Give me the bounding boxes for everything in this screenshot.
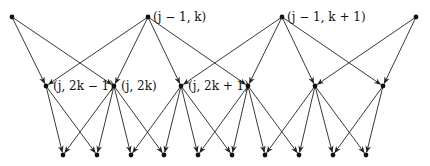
graph-node-m5: [381, 84, 386, 89]
graph-node-t3: [414, 15, 419, 20]
graph-node-m2: [179, 84, 184, 89]
edge-arrow: [248, 86, 264, 152]
edge-arrow: [317, 17, 416, 84]
edge-arrow: [282, 17, 314, 83]
edge-arrow: [367, 86, 383, 152]
edge-arrow: [98, 86, 114, 152]
edge-arrow: [148, 17, 246, 84]
graph-node-m0: [44, 84, 49, 89]
edge-arrow: [282, 17, 381, 84]
graph-node-b0: [61, 153, 66, 158]
edge-arrow: [384, 17, 416, 83]
edge-arrow: [133, 86, 181, 153]
node-label-m2: (j, 2k + 1): [188, 79, 249, 93]
node-label-t2: (j − 1, k + 1): [287, 10, 366, 24]
edge-arrow: [181, 86, 230, 153]
edge-arrow: [46, 86, 62, 152]
node-label-m1: (j, 2k): [121, 79, 157, 93]
edge-arrow: [65, 86, 114, 153]
graph-node-b9: [364, 153, 369, 158]
graph-node-b4: [196, 153, 201, 158]
edge-arrow: [114, 86, 162, 153]
edge-arrow: [115, 17, 148, 83]
node-label-t1: (j − 1, k): [153, 10, 206, 24]
edge-arrow: [200, 86, 248, 153]
edge-arrow: [181, 86, 197, 152]
graph-node-b1: [95, 153, 100, 158]
edge-arrow: [335, 86, 383, 153]
edge-arrow: [249, 17, 282, 83]
edge-arrow: [114, 86, 130, 152]
edge-arrow: [267, 86, 315, 153]
edge-arrow: [12, 17, 112, 84]
graph-node-b7: [297, 153, 302, 158]
edge-arrow: [315, 86, 364, 153]
edge-arrow: [48, 17, 148, 84]
graph-node-t0: [10, 15, 15, 20]
graph-node-b6: [263, 153, 268, 158]
edge-arrow: [315, 86, 332, 152]
edge-arrow: [165, 86, 181, 152]
graph-node-t1: [146, 15, 151, 20]
edge-arrow: [46, 86, 95, 153]
graph-node-b5: [230, 153, 235, 158]
edge-arrow: [148, 17, 180, 83]
edge-arrow: [183, 17, 282, 84]
graph-node-b2: [129, 153, 134, 158]
graph-node-b8: [331, 153, 336, 158]
graph-node-t2: [280, 15, 285, 20]
graph-node-b3: [162, 153, 167, 158]
graph-node-m4: [313, 84, 318, 89]
node-label-m0: (j, 2k − 1): [53, 79, 114, 93]
edge-arrow: [248, 86, 297, 153]
edge-arrow: [12, 17, 45, 83]
